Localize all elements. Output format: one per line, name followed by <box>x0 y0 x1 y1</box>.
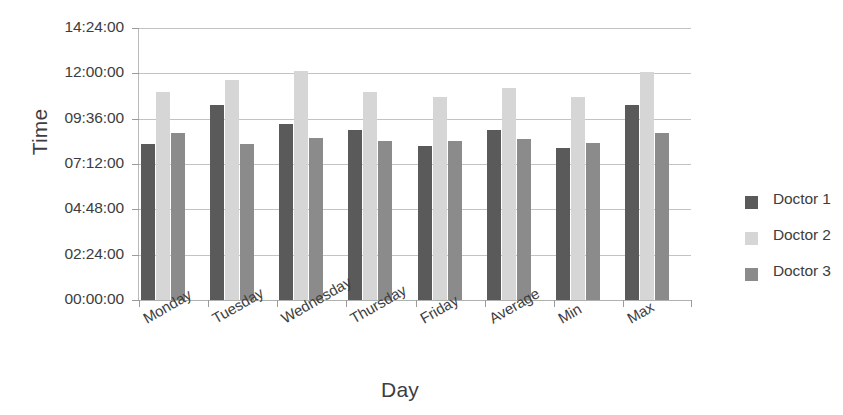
bar[interactable] <box>240 144 254 300</box>
x-axis-tick <box>139 300 140 307</box>
bar-group <box>554 28 623 300</box>
gridline <box>138 300 691 301</box>
y-axis-tick <box>132 300 139 301</box>
legend-item[interactable]: Doctor 2 <box>745 226 843 262</box>
bar-group <box>623 28 692 300</box>
bar-chart: Time 14:24:0012:00:0009:36:0007:12:0004:… <box>0 0 843 415</box>
legend-label: Doctor 1 <box>773 190 831 208</box>
x-axis-category-label: Min <box>555 300 584 327</box>
x-axis-tick <box>208 300 209 307</box>
bar[interactable] <box>556 148 570 300</box>
bar-groups <box>139 28 691 300</box>
bar[interactable] <box>309 138 323 300</box>
x-axis-tick <box>346 300 347 307</box>
bar[interactable] <box>433 97 447 300</box>
y-axis-title: Time <box>28 72 52 192</box>
bar-group <box>416 28 485 300</box>
bar[interactable] <box>487 130 501 300</box>
y-axis-tick-label: 14:24:00 <box>38 18 124 36</box>
bar[interactable] <box>363 92 377 300</box>
legend-item[interactable]: Doctor 3 <box>745 262 843 298</box>
bar-group <box>346 28 415 300</box>
x-axis-tick <box>485 300 486 307</box>
bar[interactable] <box>156 92 170 300</box>
y-axis-tick <box>132 209 139 210</box>
x-axis-category-label: Max <box>624 298 657 327</box>
bar[interactable] <box>294 71 308 300</box>
x-axis-tick <box>277 300 278 307</box>
bar[interactable] <box>225 80 239 300</box>
bar[interactable] <box>418 146 432 300</box>
bar[interactable] <box>279 124 293 300</box>
y-axis-tick <box>132 164 139 165</box>
bar-group <box>139 28 208 300</box>
x-axis-tick <box>691 300 692 307</box>
legend: Doctor 1Doctor 2Doctor 3 <box>745 190 843 298</box>
x-axis-tick <box>554 300 555 307</box>
y-axis-tick <box>132 28 139 29</box>
bar[interactable] <box>586 143 600 300</box>
bar[interactable] <box>571 97 585 300</box>
legend-swatch-icon <box>745 232 758 245</box>
bar[interactable] <box>517 139 531 300</box>
x-axis-tick <box>416 300 417 307</box>
bar[interactable] <box>448 141 462 300</box>
y-axis-tick-label: 07:12:00 <box>38 154 124 172</box>
bar[interactable] <box>210 105 224 300</box>
bar[interactable] <box>640 72 654 300</box>
legend-swatch-icon <box>745 196 758 209</box>
y-axis-tick-label: 00:00:00 <box>38 290 124 308</box>
bar[interactable] <box>348 130 362 300</box>
y-axis-tick <box>132 119 139 120</box>
plot-area: 14:24:0012:00:0009:36:0007:12:0004:48:00… <box>138 28 691 300</box>
y-axis-tick <box>132 73 139 74</box>
bar[interactable] <box>502 88 516 301</box>
x-axis-tick <box>623 300 624 307</box>
legend-label: Doctor 3 <box>773 262 831 280</box>
bar[interactable] <box>171 133 185 300</box>
bar-group <box>208 28 277 300</box>
bar[interactable] <box>141 144 155 300</box>
bar-group <box>277 28 346 300</box>
y-axis-tick <box>132 255 139 256</box>
y-axis-tick-label: 09:36:00 <box>38 109 124 127</box>
y-axis-tick-label: 04:48:00 <box>38 199 124 217</box>
legend-item[interactable]: Doctor 1 <box>745 190 843 226</box>
bar[interactable] <box>655 133 669 300</box>
bar[interactable] <box>625 105 639 300</box>
legend-label: Doctor 2 <box>773 226 831 244</box>
bar-group <box>485 28 554 300</box>
bar[interactable] <box>378 141 392 300</box>
y-axis-tick-label: 12:00:00 <box>38 63 124 81</box>
legend-swatch-icon <box>745 268 758 281</box>
y-axis-tick-label: 02:24:00 <box>38 245 124 263</box>
x-axis-title: Day <box>300 378 500 402</box>
